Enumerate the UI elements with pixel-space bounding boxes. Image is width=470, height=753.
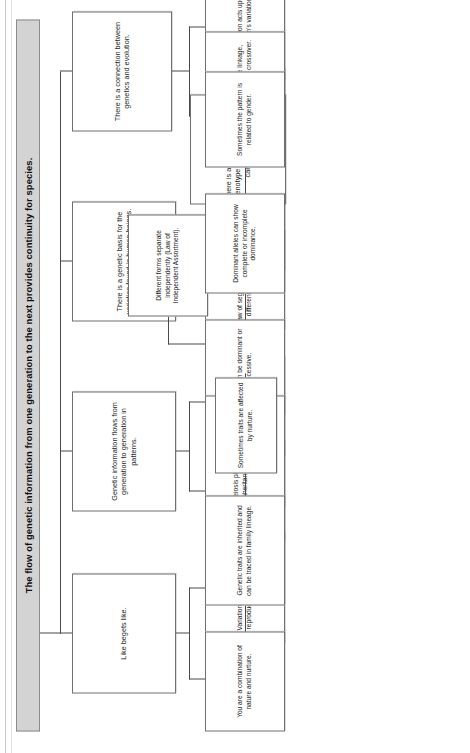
diagram-page: The flow of genetic information from one… <box>0 0 470 753</box>
connector-b3-fanout <box>189 401 190 491</box>
connector-b4-fanout <box>189 587 190 679</box>
node-label: Genetic information flows from generatio… <box>110 395 138 507</box>
connector-b3b2-to-b3b3 <box>245 167 246 193</box>
node-label: You are a combination of nature and nurt… <box>236 635 253 727</box>
node-traits-inherited-family-lineage: Genetic traits are inherited and can be … <box>205 495 285 605</box>
connector-b1-stem <box>172 70 190 71</box>
connector-b3b1-to-b3b2 <box>245 293 246 319</box>
node-label: Sometimes traits are affected by nurture… <box>237 381 254 469</box>
root-title-bar: The flow of genetic information from one… <box>16 19 40 731</box>
node-nature-and-nurture: You are a combination of nature and nurt… <box>205 631 285 731</box>
node-traits-affected-by-nurture: Sometimes traits are affected by nurture… <box>215 377 277 473</box>
node-connection-genetics-evolution: There is a connection between genetics a… <box>72 11 172 131</box>
connector-b3-stem <box>176 450 190 451</box>
node-label: Different forms separate independently (… <box>155 218 181 312</box>
node-label: Like begets like. <box>119 577 128 689</box>
connector-root-to-b1 <box>60 70 72 71</box>
connector-b3-to-b3b <box>189 490 205 491</box>
connector-b3-to-b3a <box>189 401 205 402</box>
connector-root-spine-left <box>40 632 61 633</box>
connector-b4b-to-b4b1 <box>245 605 246 631</box>
node-label: Sometimes the pattern is related to gend… <box>236 75 253 163</box>
connector-root-to-b2 <box>60 260 72 261</box>
node-independent-assortment: Different forms separate independently (… <box>128 214 208 316</box>
connector-b1-to-b1a <box>189 26 205 27</box>
node-label: There is a connection between genetics a… <box>113 15 132 127</box>
node-like-begets-like: Like begets like. <box>72 573 176 693</box>
node-genetic-information-flows: Genetic information flows from generatio… <box>72 391 176 511</box>
connector-b4-to-b4b <box>189 678 205 679</box>
connector-b4b1-to-merge <box>245 473 246 495</box>
node-complete-incomplete-dominance: Dominant alleles can show complete or in… <box>205 193 285 293</box>
connector-root-to-b4 <box>60 632 72 633</box>
root-title-text: The flow of genetic information from one… <box>23 157 34 593</box>
connector-b4-to-b4a <box>189 587 205 588</box>
node-label: Dominant alleles can show complete or in… <box>232 197 258 289</box>
connector-root-to-b3 <box>60 450 72 451</box>
concept-map-canvas: The flow of genetic information from one… <box>0 0 470 753</box>
connector-b3a1-to-assortment <box>168 316 169 344</box>
connector-root-spine <box>60 71 61 633</box>
connector-b4-stem <box>176 632 190 633</box>
node-pattern-related-to-gender: Sometimes the pattern is related to gend… <box>205 71 285 167</box>
node-label: Genetic traits are inherited and can be … <box>236 499 253 601</box>
